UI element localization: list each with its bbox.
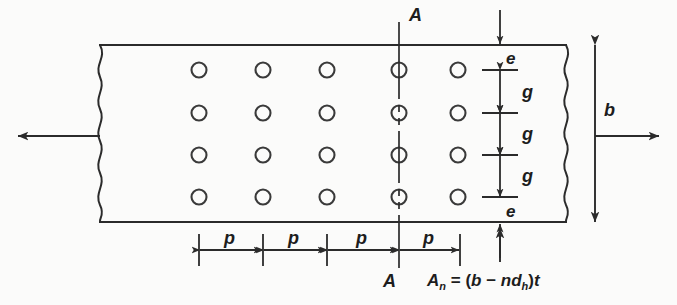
bolt-hole [256,190,271,205]
diagram-vector-layer [0,0,677,305]
dimension-label-edge-bottom: e [506,203,515,220]
dimension-label-edge-top: e [506,50,515,67]
bolt-hole [451,63,466,78]
dimension-label-gage-2: g [522,125,533,143]
equation-term-n: n [501,271,511,290]
bolt-hole [451,190,466,205]
net-area-equation: An = (b − ndh)t [427,272,540,292]
bolt-hole [192,190,207,205]
equation-term-d: d [511,271,521,290]
bolt-hole [192,148,207,163]
bolt-hole [256,63,271,78]
dimension-label-pitch-4: p [423,229,434,247]
section-label-a-top: A [409,6,422,24]
dimension-label-width-b: b [604,101,615,119]
plate-outline [99,45,567,222]
dimension-label-pitch-3: p [356,229,367,247]
equation-minus: − [481,271,500,290]
bolt-hole [320,190,335,205]
dimension-chain-pitch [199,234,460,266]
section-label-a-bottom: A [383,272,396,290]
equation-equals: = ( [446,271,471,290]
bolt-hole-grid [192,63,466,205]
bolt-hole [320,148,335,163]
equation-term-t: t [534,271,540,290]
dimension-label-gage-3: g [522,167,533,185]
bolt-hole [256,148,271,163]
right-break-line [564,45,568,222]
bolt-hole [320,63,335,78]
equation-lhs-subscript: n [439,280,446,292]
figure-canvas: A A e e g g g b p p p p An = (b − ndh)t [0,0,677,305]
bolt-hole [451,106,466,121]
bolt-hole [256,106,271,121]
dimension-label-pitch-1: p [224,229,235,247]
left-break-line [98,45,102,222]
equation-lhs: A [427,271,439,290]
bolt-hole [320,106,335,121]
dimension-label-pitch-2: p [288,229,299,247]
dimension-label-gage-1: g [522,83,533,101]
equation-term-b: b [471,271,481,290]
bolt-hole [192,63,207,78]
bolt-hole [451,148,466,163]
bolt-hole [192,106,207,121]
